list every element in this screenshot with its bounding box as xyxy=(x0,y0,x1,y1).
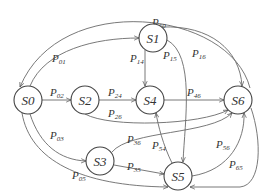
label-p65: P65 xyxy=(228,158,243,172)
label-p35: P35 xyxy=(126,160,141,174)
label-p01: P01 xyxy=(51,52,66,66)
edge-p54 xyxy=(156,113,172,163)
node-s4: S4 xyxy=(136,86,164,114)
label-p03: P03 xyxy=(49,129,64,143)
node-s0-label: S0 xyxy=(22,93,36,108)
label-p14: P14 xyxy=(129,52,144,66)
label-p26: P26 xyxy=(107,107,122,121)
node-s3-label: S3 xyxy=(94,154,108,169)
label-p16: P16 xyxy=(191,47,206,61)
node-s0: S0 xyxy=(14,86,42,114)
node-s6-label: S6 xyxy=(232,93,246,108)
label-p02: P02 xyxy=(49,86,64,100)
label-p54: P54 xyxy=(151,139,166,153)
label-p24: P24 xyxy=(107,86,122,100)
label-p46: P46 xyxy=(186,86,201,100)
label-p56: P56 xyxy=(215,138,230,152)
node-s2-label: S2 xyxy=(79,93,93,108)
node-s1: S1 xyxy=(139,24,167,52)
node-s3: S3 xyxy=(86,147,114,175)
node-s1-label: S1 xyxy=(147,31,160,46)
edge-p01 xyxy=(30,38,139,86)
label-p05: P05 xyxy=(71,169,86,183)
node-s2: S2 xyxy=(71,86,99,114)
label-p15: P15 xyxy=(162,49,177,63)
node-s5-label: S5 xyxy=(172,169,186,184)
node-s5: S5 xyxy=(164,162,192,190)
node-s4-label: S4 xyxy=(144,93,158,108)
label-p36: P36 xyxy=(126,133,141,147)
node-s6: S6 xyxy=(224,86,252,114)
state-transition-diagram: P01 P02 P03 P05 P14 P15 P16 P24 P26 P36 … xyxy=(0,0,266,196)
